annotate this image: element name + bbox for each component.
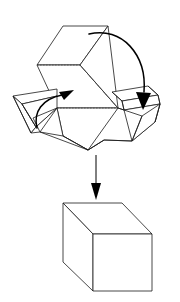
figure-root: Carton folding assembly diagram Line dra… bbox=[0, 0, 180, 302]
folding-diagram-svg: Carton folding assembly diagram Line dra… bbox=[0, 0, 180, 302]
step-partially-folded-carton bbox=[13, 26, 160, 150]
step-assembled-cube bbox=[63, 203, 152, 291]
assembly-flow-arrow bbox=[91, 155, 101, 200]
cube-front-face bbox=[93, 234, 152, 291]
assembly-flow-arrow-head bbox=[91, 183, 101, 200]
